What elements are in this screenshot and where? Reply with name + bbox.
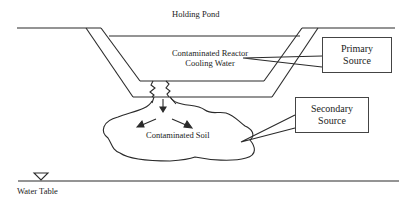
liner-crack-left	[150, 81, 155, 97]
arrow-right-shaft	[172, 119, 186, 125]
secondary-source-box: Secondary Source	[295, 97, 369, 133]
cooling-water-label: Contaminated Reactor Cooling Water	[155, 48, 265, 68]
seep-line-left	[152, 97, 154, 103]
contaminated-soil-label: Contaminated Soil	[146, 130, 210, 140]
primary-source-box: Primary Source	[322, 37, 392, 73]
arrow-left-head	[137, 121, 144, 127]
arrow-right-head	[184, 121, 192, 128]
water-table-marker-icon	[34, 173, 48, 180]
arrow-down-head	[160, 107, 166, 112]
contaminated-soil-cloud	[103, 97, 254, 161]
cooling-water-label-line1: Contaminated Reactor	[155, 48, 265, 58]
holding-pond-title: Holding Pond	[172, 9, 219, 19]
secondary-box-line2: Source	[296, 115, 368, 127]
cooling-water-label-line2: Cooling Water	[155, 58, 265, 68]
primary-box-line2: Source	[323, 55, 391, 67]
secondary-box-line1: Secondary	[296, 103, 368, 115]
liner-crack-right	[166, 81, 170, 97]
primary-box-line1: Primary	[323, 43, 391, 55]
water-table-label: Water Table	[17, 186, 58, 196]
holding-pond-diagram: Holding Pond Contaminated Reactor Coolin…	[0, 0, 412, 205]
arrow-left-shaft	[142, 119, 156, 125]
